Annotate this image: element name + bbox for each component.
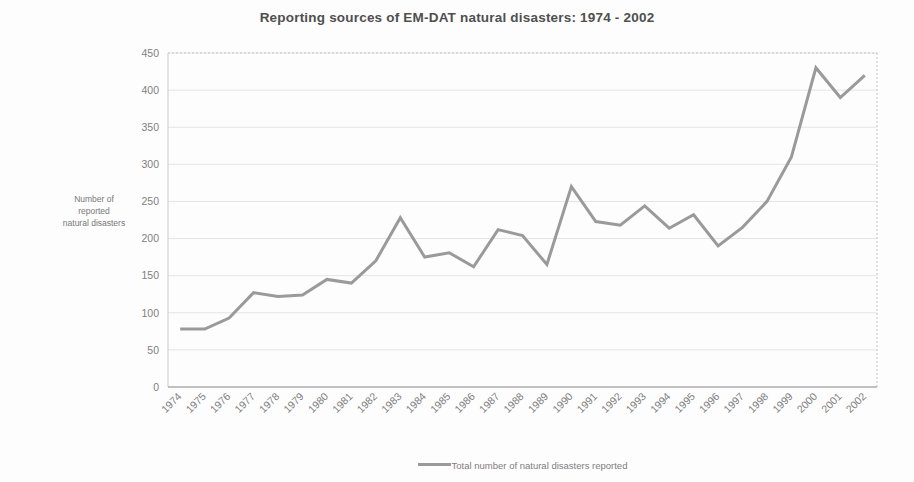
x-tick-label: 1997: [721, 390, 746, 415]
x-tick-label: 2000: [794, 390, 819, 415]
x-tick-label: 1991: [574, 390, 599, 415]
y-tick-label: 200: [141, 232, 159, 244]
x-tick-label: 1979: [281, 390, 306, 415]
y-tick-label: 250: [141, 195, 159, 207]
x-tick-label: 1981: [330, 390, 355, 415]
x-tick-label: 1985: [428, 390, 453, 415]
y-tick-label: 450: [141, 47, 159, 59]
y-tick-label: 100: [141, 307, 159, 319]
x-tick-label: 1995: [672, 390, 697, 415]
x-tick-label: 1996: [696, 390, 721, 415]
legend-line-swatch: [418, 463, 451, 466]
legend-label: Total number of natural disasters report…: [452, 460, 628, 471]
x-tick-label: 1994: [648, 390, 673, 415]
x-tick-label: 1990: [550, 390, 575, 415]
x-tick-label: 1974: [159, 390, 184, 415]
x-tick-label: 1992: [599, 390, 624, 415]
y-tick-label: 50: [147, 344, 159, 356]
plot-area: 0501001502002503003504004501974197519761…: [0, 0, 914, 482]
x-tick-label: 2002: [843, 390, 868, 415]
x-tick-label: 1986: [452, 390, 477, 415]
x-tick-label: 1983: [379, 390, 404, 415]
data-line-total-disasters: [180, 68, 865, 329]
x-tick-label: 1976: [208, 390, 233, 415]
x-tick-label: 1982: [354, 390, 379, 415]
x-tick-label: 1975: [183, 390, 208, 415]
legend: Total number of natural disasters report…: [168, 455, 877, 473]
x-tick-label: 2001: [819, 390, 844, 415]
x-tick-label: 1984: [403, 390, 428, 415]
x-tick-label: 1998: [745, 390, 770, 415]
x-tick-label: 1988: [501, 390, 526, 415]
y-tick-label: 350: [141, 121, 159, 133]
x-tick-label: 1987: [476, 390, 501, 415]
y-tick-label: 400: [141, 84, 159, 96]
chart: Reporting sources of EM-DAT natural disa…: [0, 0, 914, 482]
x-tick-label: 1977: [232, 390, 257, 415]
x-tick-label: 1993: [623, 390, 648, 415]
y-tick-label: 300: [141, 158, 159, 170]
y-tick-label: 0: [153, 381, 159, 393]
x-tick-label: 1980: [305, 390, 330, 415]
x-tick-label: 1978: [256, 390, 281, 415]
x-tick-label: 1999: [770, 390, 795, 415]
y-tick-label: 150: [141, 269, 159, 281]
x-tick-label: 1989: [525, 390, 550, 415]
